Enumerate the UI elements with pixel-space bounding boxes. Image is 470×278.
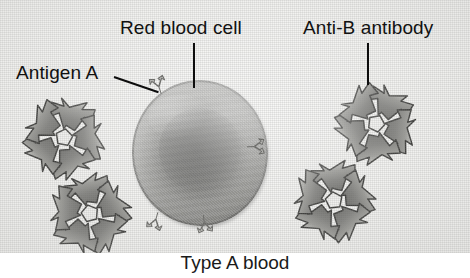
figure-root: Red blood cell Anti-B antibody Antigen A… xyxy=(0,0,470,278)
caption-area: Type A blood xyxy=(0,253,470,278)
leader-line-red-blood-cell xyxy=(193,43,195,88)
label-antigen-a: Antigen A xyxy=(16,62,98,84)
label-red-blood-cell: Red blood cell xyxy=(120,17,242,39)
figure-caption: Type A blood xyxy=(0,253,470,274)
antigen-a-spike xyxy=(145,210,166,231)
anti-b-antibody xyxy=(282,149,386,253)
antigen-a-spike xyxy=(247,138,265,156)
label-anti-b-antibody: Anti-B antibody xyxy=(303,17,433,39)
illustration-panel: Red blood cell Anti-B antibody Antigen A xyxy=(0,0,470,253)
leader-line-anti-b-antibody xyxy=(367,43,369,85)
antigen-a-spike xyxy=(195,214,214,233)
